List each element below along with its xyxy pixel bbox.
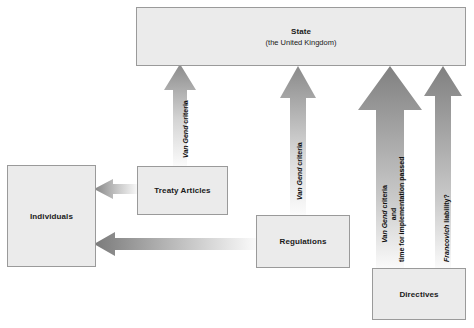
node-treaty-articles[interactable]: Treaty Articles (137, 166, 228, 215)
arrow-directives-to-state-francovich (424, 66, 462, 269)
arrow-directives-to-state-vertical-effect (358, 66, 422, 269)
node-individuals-label: Individuals (30, 211, 73, 222)
node-state-sublabel: (the United Kingdom) (266, 37, 337, 48)
node-state[interactable]: State (the United Kingdom) (136, 7, 466, 66)
arrow-regulations-to-individuals (94, 232, 257, 256)
node-directives[interactable]: Directives (372, 268, 466, 320)
node-directives-label: Directives (399, 289, 438, 300)
arrow-treaty-to-state (164, 64, 196, 166)
node-treaty-articles-label: Treaty Articles (154, 185, 210, 196)
arrow-regulations-to-state (280, 66, 316, 216)
node-regulations[interactable]: Regulations (256, 215, 350, 268)
arrow-treaty-to-individuals (94, 179, 138, 199)
node-individuals[interactable]: Individuals (7, 165, 96, 267)
node-state-label: State (291, 26, 311, 37)
node-regulations-label: Regulations (280, 236, 327, 247)
